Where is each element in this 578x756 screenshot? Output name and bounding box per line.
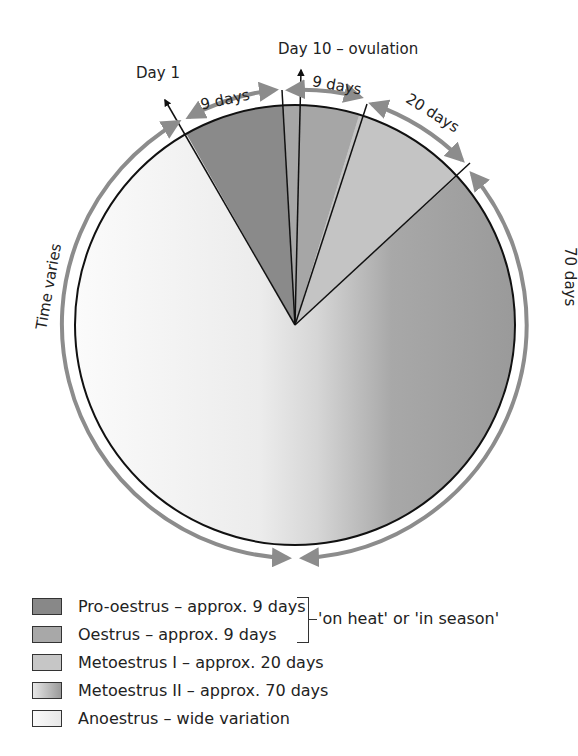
legend-item-anoestrus: Anoestrus – wide variation (32, 704, 328, 732)
on-heat-label: 'on heat' or 'in season' (318, 609, 499, 628)
label-met2-days: 70 days (561, 247, 578, 306)
legend-label: Pro-oestrus – approx. 9 days (78, 597, 306, 616)
label-day1: Day 1 (136, 64, 180, 82)
label-oestrus-days: 9 days (311, 72, 363, 98)
legend-label: Metoestrus I – approx. 20 days (78, 653, 324, 672)
legend-label: Oestrus – approx. 9 days (78, 625, 277, 644)
legend-item-proestrus: Pro-oestrus – approx. 9 days (32, 592, 328, 620)
legend: Pro-oestrus – approx. 9 days Oestrus – a… (32, 592, 328, 732)
legend-item-metoestrus-2: Metoestrus II – approx. 70 days (32, 676, 328, 704)
swatch-oestrus (32, 626, 62, 643)
legend-item-oestrus: Oestrus – approx. 9 days (32, 620, 328, 648)
swatch-metoestrus-1 (32, 654, 62, 671)
oestrous-cycle-diagram: Day 1 Day 10 – ovulation 9 days 9 days 2… (0, 0, 578, 590)
label-met1-days: 20 days (403, 90, 463, 137)
legend-label: Metoestrus II – approx. 70 days (78, 681, 328, 700)
on-heat-bracket (297, 597, 309, 643)
swatch-proestrus (32, 598, 62, 615)
swatch-metoestrus-2 (32, 682, 62, 699)
legend-item-metoestrus-1: Metoestrus I – approx. 20 days (32, 648, 328, 676)
swatch-anoestrus (32, 710, 62, 727)
label-day10-ovulation: Day 10 – ovulation (278, 40, 418, 58)
label-proestrus-days: 9 days (199, 86, 252, 114)
legend-label: Anoestrus – wide variation (78, 709, 290, 728)
on-heat-bracket-tick (309, 619, 317, 620)
